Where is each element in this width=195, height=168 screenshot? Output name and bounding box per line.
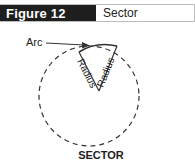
circle-outline — [39, 46, 139, 146]
diagram-caption: SECTOR — [0, 149, 195, 161]
arc-label: Arc — [26, 36, 43, 48]
sector-diagram: Arc Radius Radius — [0, 0, 195, 168]
arc-pointer-line — [46, 43, 84, 45]
radius-label-right: Radius — [95, 56, 117, 89]
